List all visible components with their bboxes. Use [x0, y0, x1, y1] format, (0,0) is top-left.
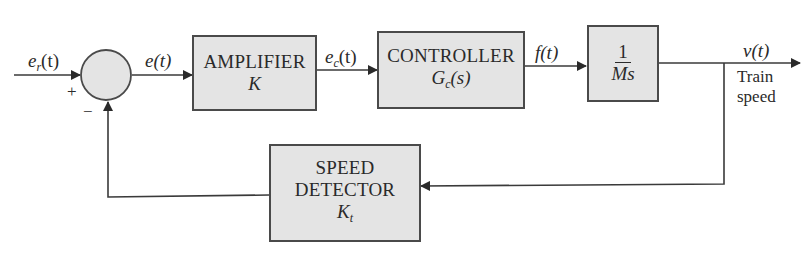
force-signal-label: f(t) — [535, 42, 558, 64]
controller-block: CONTROLLER Gc(s) — [377, 31, 525, 109]
amplifier-block: AMPLIFIER K — [192, 35, 317, 111]
speed-detector-block: SPEED DETECTOR Kt — [269, 144, 421, 242]
control-signal-label: ec(t) — [325, 46, 357, 71]
plant-transfer-function: 1 Ms — [611, 42, 634, 85]
denominator: Ms — [611, 63, 634, 85]
caption-line-1: Train — [737, 67, 776, 87]
controller-title: CONTROLLER — [387, 45, 515, 67]
amplifier-title: AMPLIFIER — [203, 51, 305, 73]
summing-junction — [81, 50, 131, 100]
error-signal-label: e(t) — [145, 50, 171, 72]
numerator: 1 — [615, 42, 631, 63]
output-caption: Train speed — [737, 67, 776, 107]
speed-detector-title-1: SPEED — [315, 157, 374, 179]
feedback-return-arrow — [108, 102, 269, 197]
reference-signal-label: er(t) — [28, 50, 59, 75]
controller-transfer-function: Gc(s) — [431, 67, 470, 95]
output-signal-label: v(t) — [743, 40, 769, 62]
speed-detector-title-2: DETECTOR — [295, 179, 395, 201]
speed-detector-gain: Kt — [337, 201, 353, 229]
plus-sign: + — [67, 82, 77, 102]
plant-block: 1 Ms — [587, 25, 659, 102]
caption-line-2: speed — [737, 87, 776, 107]
minus-sign: − — [83, 102, 93, 122]
amplifier-gain: K — [248, 73, 261, 95]
